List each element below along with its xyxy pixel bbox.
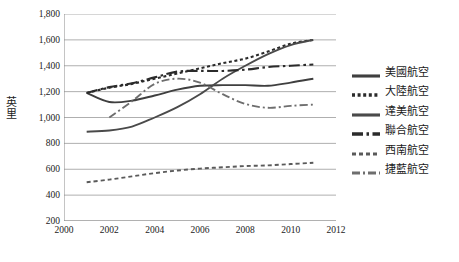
y-axis-tick-label: 600 <box>20 164 60 174</box>
legend-label: 大陸航空 <box>385 85 429 97</box>
y-axis-tick-label: 1,600 <box>20 35 60 45</box>
legend-item[interactable]: 達美航空 <box>352 101 457 121</box>
legend-swatch <box>352 164 380 174</box>
legend-swatch <box>352 106 380 116</box>
y-axis-tick-label: 400 <box>20 190 60 200</box>
y-axis-tick-label: 1,400 <box>20 61 60 71</box>
series-line <box>87 163 314 182</box>
y-axis-tick-label: 1,800 <box>20 9 60 19</box>
legend-label: 西南航空 <box>385 144 429 156</box>
legend-swatch <box>352 145 380 155</box>
x-axis-tick-label: 2008 <box>223 225 267 235</box>
y-axis-tick-label: 800 <box>20 138 60 148</box>
x-axis-tick-label: 2002 <box>87 225 131 235</box>
legend-item[interactable]: 美國航空 <box>352 62 457 82</box>
legend-label: 聯合航空 <box>385 124 429 136</box>
plot-svg <box>64 14 336 221</box>
plot-area <box>64 14 336 221</box>
y-axis-tick-labels: 1,8001,6001,4001,2001,000800600400200 <box>16 0 60 262</box>
legend-label: 美國航空 <box>385 66 429 78</box>
legend-swatch <box>352 67 380 77</box>
x-axis-tick-label: 2006 <box>178 225 222 235</box>
gridlines <box>64 14 336 221</box>
legend-swatch <box>352 125 380 135</box>
x-axis-tick-label: 2000 <box>42 225 86 235</box>
line-chart: 英 里 1,8001,6001,4001,2001,00080060040020… <box>0 0 459 262</box>
legend-label: 捷藍航空 <box>385 163 429 175</box>
y-axis-tick-label: 1,000 <box>20 113 60 123</box>
legend: 美國航空大陸航空達美航空聯合航空西南航空捷藍航空 <box>352 62 457 179</box>
legend-item[interactable]: 捷藍航空 <box>352 160 457 180</box>
x-axis-tick-label: 2004 <box>133 225 177 235</box>
y-axis-tick-label: 1,200 <box>20 87 60 97</box>
x-axis-tick-label: 2010 <box>269 225 313 235</box>
legend-item[interactable]: 西南航空 <box>352 140 457 160</box>
data-series-group <box>87 40 314 182</box>
legend-item[interactable]: 聯合航空 <box>352 121 457 141</box>
legend-label: 達美航空 <box>385 105 429 117</box>
legend-swatch <box>352 86 380 96</box>
series-line <box>87 64 314 92</box>
x-axis-tick-label: 2012 <box>314 225 358 235</box>
legend-item[interactable]: 大陸航空 <box>352 82 457 102</box>
